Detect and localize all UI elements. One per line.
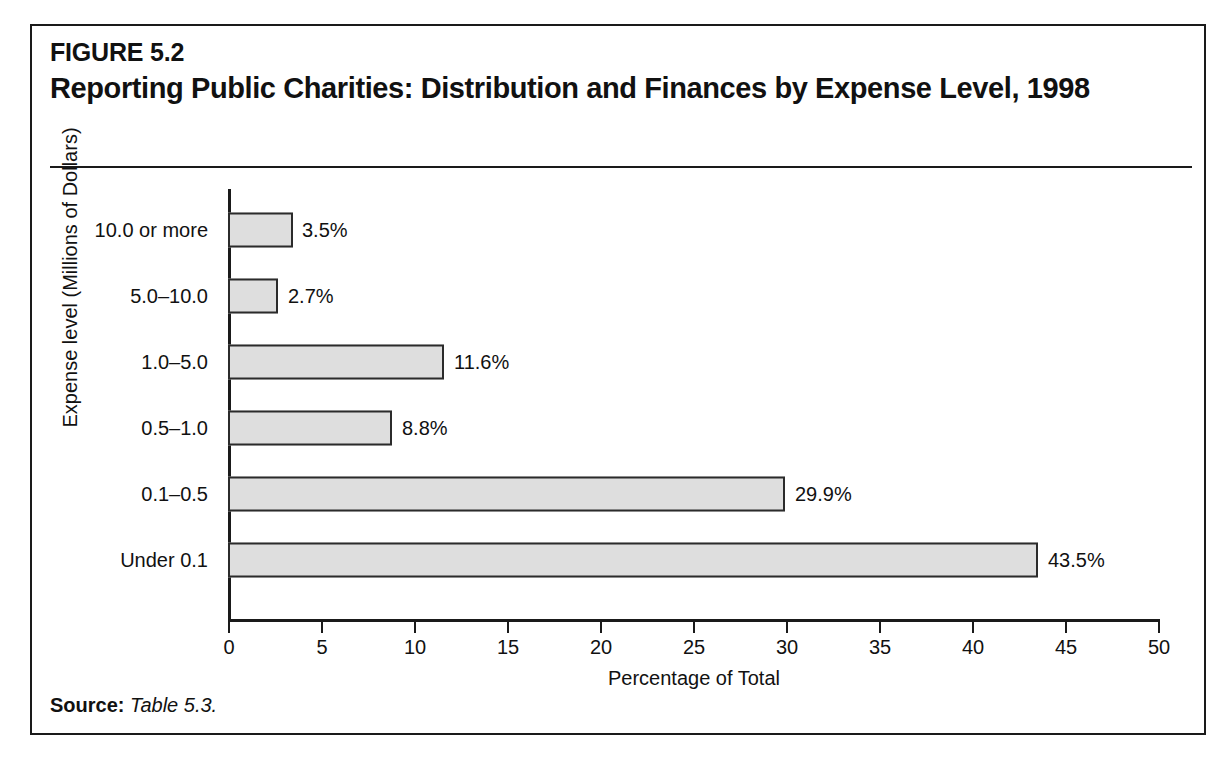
x-tick [321, 622, 323, 633]
x-tick [228, 622, 230, 633]
x-tick [507, 622, 509, 633]
x-axis-title: Percentage of Total [228, 667, 1160, 690]
y-tick-label: 0.1–0.5 [0, 483, 208, 506]
x-tick [1158, 622, 1160, 633]
bar-value-label: 29.9% [795, 483, 852, 506]
bar [228, 345, 444, 380]
x-tick [879, 622, 881, 633]
x-tick-label: 40 [943, 636, 1003, 659]
bar-value-label: 8.8% [402, 417, 448, 440]
x-tick [693, 622, 695, 633]
source-label: Source: [50, 694, 124, 716]
x-tick-label: 45 [1036, 636, 1096, 659]
x-tick-label: 0 [199, 636, 259, 659]
source-note: Source: Table 5.3. [50, 694, 217, 717]
bar-value-label: 2.7% [288, 285, 334, 308]
x-tick-label: 25 [664, 636, 724, 659]
bar [228, 213, 293, 248]
x-tick-label: 30 [757, 636, 817, 659]
bar [228, 477, 785, 512]
x-tick [600, 622, 602, 633]
bar-value-label: 43.5% [1048, 549, 1105, 572]
source-text: Table 5.3. [130, 694, 217, 716]
bar-value-label: 11.6% [454, 351, 509, 374]
x-tick [1065, 622, 1067, 633]
x-tick-label: 10 [385, 636, 445, 659]
bar [228, 279, 278, 314]
y-tick-label: 0.5–1.0 [0, 417, 208, 440]
y-tick-label: 1.0–5.0 [0, 351, 208, 374]
x-tick-label: 35 [850, 636, 910, 659]
bar [228, 543, 1038, 578]
y-axis-title: Expense level (Millions of Dollars) [59, 88, 82, 468]
x-tick [414, 622, 416, 633]
x-tick-label: 20 [571, 636, 631, 659]
x-tick [972, 622, 974, 633]
bar [228, 411, 392, 446]
bar-value-label: 3.5% [302, 219, 348, 242]
y-tick-label: 10.0 or more [0, 219, 208, 242]
y-tick-label: Under 0.1 [0, 549, 208, 572]
y-tick-label: 5.0–10.0 [0, 285, 208, 308]
bar-chart: Expense level (Millions of Dollars) 10.0… [32, 26, 1208, 737]
figure-frame: FIGURE 5.2 Reporting Public Charities: D… [30, 24, 1206, 735]
x-tick-label: 5 [292, 636, 352, 659]
x-tick-label: 50 [1129, 636, 1189, 659]
x-tick [786, 622, 788, 633]
x-tick-label: 15 [478, 636, 538, 659]
